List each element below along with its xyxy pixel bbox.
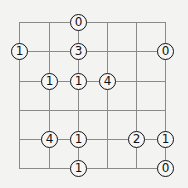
clue-circle[interactable]: 2 (128, 131, 145, 148)
clue-circle[interactable]: 1 (70, 160, 87, 177)
grid-line-vertical (107, 22, 108, 169)
grid-line-horizontal (19, 168, 166, 169)
clue-circle[interactable]: 1 (41, 73, 58, 90)
clue-circle[interactable]: 1 (70, 73, 87, 90)
grid-line-horizontal (19, 22, 166, 23)
clue-circle[interactable]: 1 (11, 43, 28, 60)
clue-circle[interactable]: 0 (70, 14, 87, 31)
clue-circle[interactable]: 4 (99, 73, 116, 90)
grid-line-horizontal (19, 51, 166, 52)
grid-line-horizontal (19, 110, 166, 111)
clue-circle[interactable]: 4 (41, 131, 58, 148)
clue-circle[interactable]: 1 (157, 131, 174, 148)
puzzle-board: 0130114412110 (0, 0, 188, 188)
clue-circle[interactable]: 1 (70, 131, 87, 148)
clue-circle[interactable]: 0 (157, 43, 174, 60)
clue-circle[interactable]: 3 (70, 43, 87, 60)
clue-circle[interactable]: 0 (157, 160, 174, 177)
